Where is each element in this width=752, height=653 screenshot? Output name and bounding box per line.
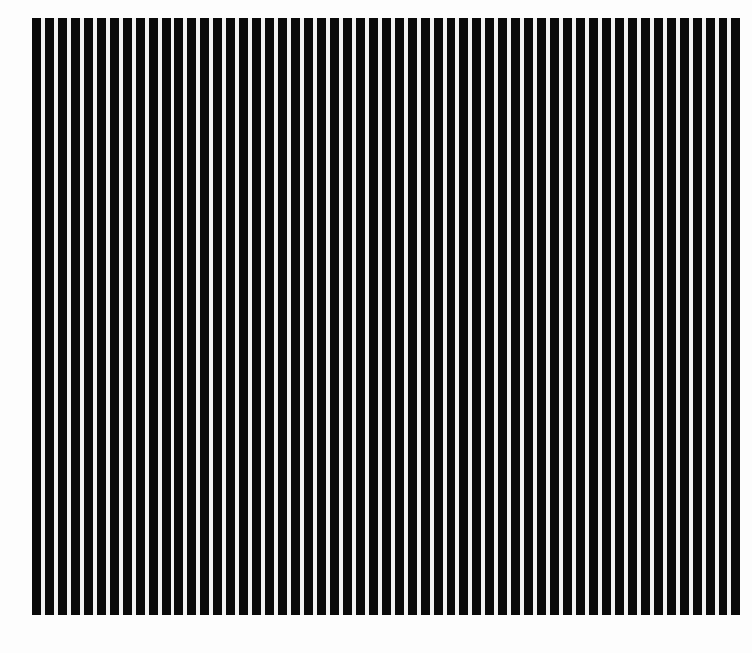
black-bar (382, 18, 391, 615)
black-bar (524, 18, 533, 615)
black-bar (174, 18, 183, 615)
black-bar (615, 18, 624, 615)
black-bar (459, 18, 468, 615)
black-bar (252, 18, 261, 615)
black-bar (304, 18, 313, 615)
black-bar (187, 18, 196, 615)
black-bar (226, 18, 235, 615)
black-bar (395, 18, 404, 615)
black-bar (550, 18, 559, 615)
black-bar (498, 18, 507, 615)
black-bar (97, 18, 106, 615)
black-bar (110, 18, 119, 615)
black-bar (667, 18, 676, 615)
black-bar (317, 18, 326, 615)
black-bar (58, 18, 67, 615)
black-bar (434, 18, 443, 615)
figure-canvas (0, 0, 752, 653)
black-bar (576, 18, 585, 615)
black-bar (213, 18, 222, 615)
black-bar (680, 18, 689, 615)
black-bar (123, 18, 132, 615)
black-bar (239, 18, 248, 615)
black-bar (602, 18, 611, 615)
black-bar (485, 18, 494, 615)
black-bar (369, 18, 378, 615)
black-bar (654, 18, 663, 615)
black-bar (537, 18, 546, 615)
black-bar (589, 18, 598, 615)
black-bar (693, 18, 702, 615)
black-bar (356, 18, 365, 615)
black-bar (149, 18, 158, 615)
black-bar (511, 18, 520, 615)
black-bar (71, 18, 80, 615)
black-bar (265, 18, 274, 615)
bar-grating (32, 18, 745, 615)
black-bar (200, 18, 209, 615)
black-bar (45, 18, 54, 615)
black-bar (84, 18, 93, 615)
black-bar (628, 18, 637, 615)
black-bar (641, 18, 650, 615)
black-bar (719, 18, 728, 615)
black-bar (162, 18, 171, 615)
black-bar (408, 18, 417, 615)
black-bar (278, 18, 287, 615)
black-bar (421, 18, 430, 615)
black-bar (447, 18, 456, 615)
black-bar (343, 18, 352, 615)
black-bar (136, 18, 145, 615)
black-bar (472, 18, 481, 615)
black-bar (32, 18, 41, 615)
black-bar (706, 18, 715, 615)
black-bar (291, 18, 300, 615)
black-bar (563, 18, 572, 615)
black-bar (330, 18, 339, 615)
black-bar (731, 18, 740, 615)
